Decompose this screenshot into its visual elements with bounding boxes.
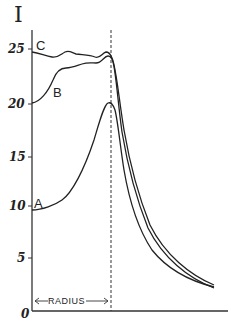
tick-label-20: 20	[7, 97, 25, 111]
radius-label: RADIUS	[48, 296, 85, 306]
tick-label-15: 15	[9, 150, 26, 164]
radius-annotation: RADIUS	[35, 296, 108, 306]
tick-label-5: 5	[17, 251, 25, 265]
curve-a-label: A	[34, 196, 43, 211]
tick-label-10: 10	[9, 199, 26, 213]
chart: I 25 20 15 10 5 0 RADIUS C B A	[0, 0, 236, 327]
y-axis-label: I	[14, 2, 23, 27]
curve-b-label: B	[53, 85, 62, 100]
tick-label-25: 25	[7, 42, 25, 56]
tick-label-0: 0	[21, 307, 30, 321]
curve-a	[32, 103, 214, 287]
curve-c-label: C	[36, 38, 45, 53]
